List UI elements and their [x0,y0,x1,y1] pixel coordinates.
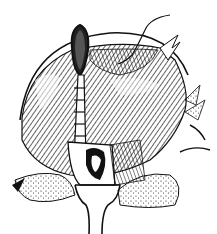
retractor-handle [75,185,120,234]
surrounding-tissue-left [15,173,75,201]
surgical-illustration [0,0,217,234]
illustration-canvas [0,0,217,234]
